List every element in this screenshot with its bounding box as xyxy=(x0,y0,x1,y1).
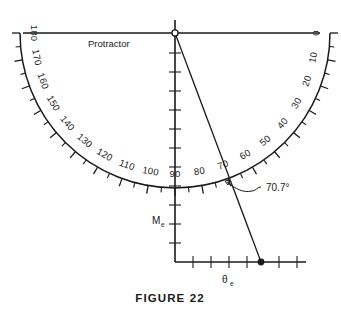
protractor-tick xyxy=(107,173,109,178)
vertical-axis-label: M xyxy=(152,215,160,226)
angle-ray xyxy=(175,33,261,262)
protractor-tick xyxy=(147,186,148,194)
horizontal-axis-label-group: θ e xyxy=(222,274,234,287)
protractor-scale-label: 140 xyxy=(58,113,77,133)
protractor-scale-label: 130 xyxy=(75,131,95,150)
protractor-tick xyxy=(294,133,300,138)
protractor-scale-label: 120 xyxy=(95,145,115,163)
protractor-tick xyxy=(20,73,25,74)
protractor-tick xyxy=(62,143,66,147)
protractor-tick xyxy=(253,167,257,174)
protractor-scale-label: 0 xyxy=(310,30,321,35)
protractor-scale-label: 170 xyxy=(30,48,44,66)
protractor-diagram: 0102030405060708090100110120130140150160… xyxy=(0,0,341,315)
protractor-scale-label: 60 xyxy=(238,147,253,162)
protractor-tick xyxy=(315,99,320,101)
protractor-tick xyxy=(215,183,216,188)
protractor-scale-label: 40 xyxy=(275,115,290,130)
protractor-scale-label: 180 xyxy=(29,25,40,41)
protractor-tick xyxy=(275,152,280,158)
protractor-scale-label: 30 xyxy=(289,96,304,111)
vertical-axis-subscript: e xyxy=(161,221,165,228)
protractor-tick xyxy=(14,60,22,61)
protractor-tick xyxy=(50,133,56,138)
protractor-tick xyxy=(285,143,289,147)
protractor-tick xyxy=(34,111,41,115)
protractor-scale-label: 80 xyxy=(193,165,206,178)
horizontal-axis-subscript: e xyxy=(230,280,234,287)
angle-value-label: 70.7° xyxy=(266,182,289,193)
protractor-tick xyxy=(83,160,86,164)
protractor-scale-label: 100 xyxy=(142,164,160,178)
protractor-scale-label: 160 xyxy=(35,71,51,90)
protractor-tick xyxy=(328,60,336,61)
protractor-scale-label: 10 xyxy=(307,51,320,64)
protractor-scale-label: 50 xyxy=(257,133,272,148)
protractor-scale-label: 110 xyxy=(118,157,137,173)
protractor-tick xyxy=(70,152,75,158)
protractor-tick xyxy=(309,111,316,115)
protractor-tick xyxy=(302,122,306,125)
protractor-tick xyxy=(22,86,30,89)
protractor-tick xyxy=(44,122,48,125)
protractor-tick xyxy=(264,160,267,164)
protractor-tick xyxy=(134,183,135,188)
protractor-tick xyxy=(119,179,122,187)
protractor-tick xyxy=(94,167,98,174)
figure-22-container: 0102030405060708090100110120130140150160… xyxy=(0,0,341,315)
protractor-tick xyxy=(321,86,329,89)
theta-endpoint-node xyxy=(258,259,264,265)
protractor-tick xyxy=(241,173,243,178)
annotation-leader-tail xyxy=(252,187,261,191)
figure-caption: FIGURE 22 xyxy=(135,292,204,304)
protractor-tick xyxy=(30,99,35,101)
protractor-title-label: Protractor xyxy=(88,38,130,49)
horizontal-axis-label: θ xyxy=(222,274,228,285)
protractor-scale-label: 20 xyxy=(300,74,314,88)
annotation-leader-line xyxy=(227,182,252,192)
origin-node xyxy=(172,30,178,36)
protractor-tick xyxy=(202,186,203,194)
protractor-tick xyxy=(325,73,330,74)
protractor-scale-label: 150 xyxy=(45,93,63,113)
vertical-axis-label-group: M e xyxy=(152,215,165,228)
